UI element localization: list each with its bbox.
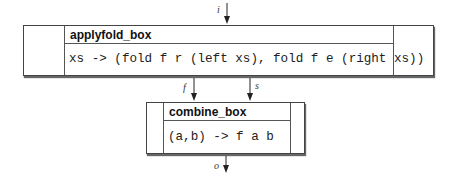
left-port-divider bbox=[64, 26, 65, 75]
combine-box-title: combine_box bbox=[169, 105, 246, 119]
edge-label-i: i bbox=[217, 4, 220, 15]
edge-label-s: s bbox=[255, 80, 259, 91]
header-separator bbox=[163, 120, 290, 121]
header-separator bbox=[64, 43, 393, 44]
applyfold-box-title: applyfold_box bbox=[70, 28, 151, 42]
applyfold-box-body: xs -> (fold f r (left xs), fold f e (rig… bbox=[69, 52, 424, 66]
right-port-divider bbox=[290, 103, 291, 153]
edge-label-f: f bbox=[183, 82, 186, 93]
right-port-divider bbox=[393, 26, 394, 75]
combine-box-body: (a,b) -> f a b bbox=[168, 130, 274, 144]
left-port-divider bbox=[163, 103, 164, 153]
edge-label-o: o bbox=[214, 160, 219, 171]
combine-box: combine_box (a,b) -> f a b bbox=[146, 102, 305, 154]
applyfold-box: applyfold_box xs -> (fold f r (left xs),… bbox=[23, 25, 434, 76]
